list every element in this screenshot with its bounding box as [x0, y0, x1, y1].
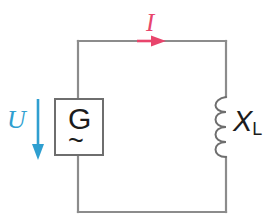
circuit-diagram: I U G ~ XL: [0, 0, 274, 222]
current-arrow-icon: [137, 36, 166, 47]
reactance-symbol: X: [233, 105, 252, 137]
voltage-arrow-icon: [32, 99, 44, 160]
reactance-subscript: L: [252, 119, 262, 139]
current-label: I: [146, 10, 154, 35]
reactance-label: XL: [233, 107, 262, 136]
ac-source-tilde-label: ~: [68, 128, 84, 155]
voltage-label: U: [7, 107, 26, 133]
inductor-coil: [216, 97, 227, 157]
